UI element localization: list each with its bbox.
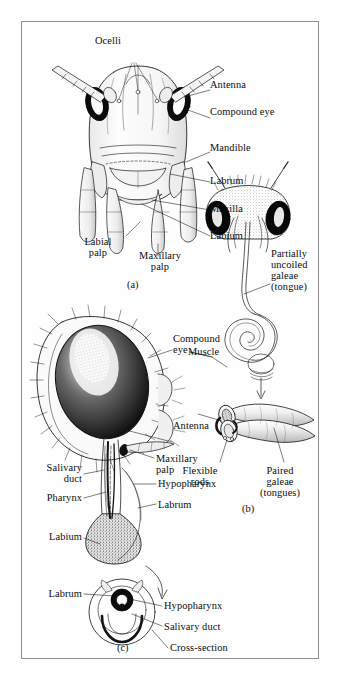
label-labium-a: Labium (210, 230, 243, 241)
label-compound-eye-c-line1: Compound (173, 333, 220, 344)
label-maxilla: Maxilla (210, 203, 243, 214)
label-muscle: Muscle (188, 346, 219, 357)
label-maxillary-palp-a-line1: Maxillary (129, 250, 191, 261)
label-antenna-c: Antenna (173, 420, 209, 431)
label-partially-line2: uncoiled (271, 259, 308, 270)
label-partially-line1: Partially (271, 248, 307, 259)
label-pharynx: Pharynx (24, 492, 82, 503)
label-partially-line4: (tongue) (271, 281, 307, 292)
label-compound-eye-a: Compound eye (210, 106, 274, 117)
label-paired-galeae-line1: Paired (249, 465, 311, 476)
label-labial-palp-line2: palp (70, 247, 126, 258)
label-compound-eye-c-line2: eye (173, 344, 188, 355)
label-hypopharynx-c: Hypopharynx (158, 478, 216, 489)
panel-caption-b: (b) (242, 503, 254, 514)
label-salivary-duct-line1: Salivary (24, 462, 82, 473)
figure-artwork (22, 22, 320, 660)
label-xs-cross-section: Cross-section (170, 642, 228, 653)
label-labial-palp-line1: Labial (70, 236, 126, 247)
panel-a-artwork (52, 63, 224, 256)
label-labrum-a: Labrum (210, 175, 244, 186)
label-maxillary-palp-c-line2: palp (156, 464, 174, 475)
label-labium-c: Labium (24, 531, 82, 542)
label-salivary-duct-line2: duct (24, 473, 82, 484)
label-mandible: Mandible (210, 142, 251, 153)
label-paired-galeae-line3: (tongues) (249, 487, 311, 498)
panel-caption-a: (a) (127, 279, 139, 290)
label-flexible-rods-line1: Flexible (174, 465, 226, 476)
label-xs-hypopharynx: Hypopharynx (164, 600, 222, 611)
figure-root: Ocelli Antenna Compound eye Mandible Lab… (0, 0, 341, 679)
label-xs-salivary-duct: Salivary duct (164, 621, 220, 632)
figure-frame: Ocelli Antenna Compound eye Mandible Lab… (21, 21, 319, 659)
panel-caption-c: (c) (117, 642, 129, 653)
label-labrum-c: Labrum (158, 499, 192, 510)
label-maxillary-palp-a-line2: palp (129, 261, 191, 272)
label-paired-galeae-line2: galeae (249, 476, 311, 487)
label-antenna-a: Antenna (210, 79, 246, 90)
label-xs-labrum: Labrum (24, 588, 82, 599)
label-partially-line3: galeae (271, 270, 298, 281)
label-maxillary-palp-c-line1: Maxillary (156, 453, 198, 464)
label-ocelli: Ocelli (95, 35, 121, 46)
panel-b-artwork (190, 162, 315, 462)
